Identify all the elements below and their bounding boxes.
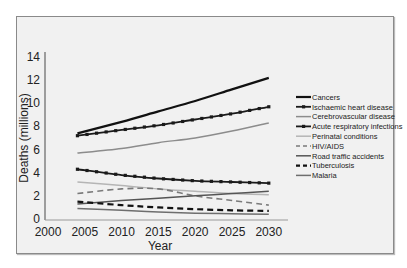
x-tick-label: 2025 <box>219 225 246 239</box>
data-marker <box>172 121 175 124</box>
data-marker <box>248 109 251 112</box>
legend-marker <box>302 125 305 128</box>
data-marker <box>238 181 241 184</box>
legend-item: Acute respiratory infections <box>296 122 403 131</box>
legend-marker <box>302 105 305 108</box>
data-marker <box>162 123 165 126</box>
data-marker <box>114 173 117 176</box>
series-ischaemic-heart-disease <box>76 105 271 137</box>
y-tick-label: 12 <box>27 73 41 87</box>
legend: CancersIschaemic heart diseaseCerebrovas… <box>296 93 403 180</box>
x-tick-label: 2000 <box>35 225 62 239</box>
legend-item: Road traffic accidents <box>296 152 384 161</box>
data-marker <box>258 107 261 110</box>
y-tick-label: 2 <box>33 189 40 203</box>
legend-item: Tuberculosis <box>296 161 354 170</box>
line-chart: 024681012142000200520102015202020252030 … <box>0 0 407 268</box>
series-lines <box>76 78 271 215</box>
data-marker <box>191 179 194 182</box>
series-cerebrovascular-disease <box>77 123 268 153</box>
data-marker <box>191 118 194 121</box>
data-marker <box>181 178 184 181</box>
data-marker <box>95 170 98 173</box>
y-tick-label: 8 <box>33 119 40 133</box>
x-axis-label: Year <box>148 239 172 253</box>
legend-item: Malaria <box>296 171 337 180</box>
data-marker <box>229 180 232 183</box>
legend-label: Tuberculosis <box>312 161 354 170</box>
data-marker <box>162 177 165 180</box>
legend-label: Ischaemic heart disease <box>312 103 393 112</box>
y-axis-label: Deaths (millions) <box>17 93 31 182</box>
x-tick-label: 2020 <box>182 225 209 239</box>
data-marker <box>267 182 270 185</box>
data-marker <box>114 129 117 132</box>
x-tick-label: 2010 <box>108 225 135 239</box>
legend-item: Cerebrovascular disease <box>296 112 395 121</box>
data-marker <box>105 130 108 133</box>
data-marker <box>76 134 79 137</box>
data-marker <box>219 180 222 183</box>
legend-item: Perinatal conditions <box>296 132 378 141</box>
data-marker <box>210 180 213 183</box>
data-marker <box>152 176 155 179</box>
y-tick-label: 0 <box>33 212 40 226</box>
data-marker <box>248 181 251 184</box>
y-tick-label: 6 <box>33 143 40 157</box>
data-marker <box>143 125 146 128</box>
legend-label: Malaria <box>312 171 337 180</box>
legend-item: HIV/AIDS <box>296 142 344 151</box>
legend-item: Ischaemic heart disease <box>296 103 393 112</box>
data-marker <box>76 168 79 171</box>
x-tick-label: 2015 <box>145 225 172 239</box>
data-marker <box>105 171 108 174</box>
data-marker <box>210 115 213 118</box>
data-marker <box>172 178 175 181</box>
data-marker <box>124 174 127 177</box>
data-marker <box>219 114 222 117</box>
data-marker <box>200 179 203 182</box>
y-tick-label: 4 <box>33 166 40 180</box>
data-marker <box>85 133 88 136</box>
legend-label: Cerebrovascular disease <box>312 112 395 121</box>
data-marker <box>200 117 203 120</box>
data-marker <box>238 111 241 114</box>
legend-label: Road traffic accidents <box>312 152 384 161</box>
data-marker <box>124 128 127 131</box>
data-marker <box>133 175 136 178</box>
x-tick-label: 2030 <box>255 225 282 239</box>
legend-item: Cancers <box>296 93 340 102</box>
data-marker <box>267 105 270 108</box>
series-acute-respiratory-infections <box>76 168 271 185</box>
series-cancers <box>77 78 268 134</box>
x-tick-label: 2005 <box>71 225 98 239</box>
data-marker <box>152 124 155 127</box>
legend-label: Perinatal conditions <box>312 132 378 141</box>
data-marker <box>181 120 184 123</box>
legend-label: Acute respiratory infections <box>312 122 403 131</box>
data-marker <box>95 132 98 135</box>
data-marker <box>229 112 232 115</box>
legend-label: Cancers <box>312 93 340 102</box>
legend-label: HIV/AIDS <box>312 142 344 151</box>
data-marker <box>258 181 261 184</box>
y-tick-label: 14 <box>27 50 41 64</box>
data-marker <box>85 169 88 172</box>
data-marker <box>143 176 146 179</box>
data-marker <box>133 127 136 130</box>
